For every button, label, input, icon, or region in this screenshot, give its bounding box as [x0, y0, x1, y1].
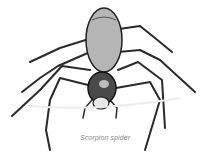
figure-caption: Scorpion spider: [80, 134, 130, 141]
